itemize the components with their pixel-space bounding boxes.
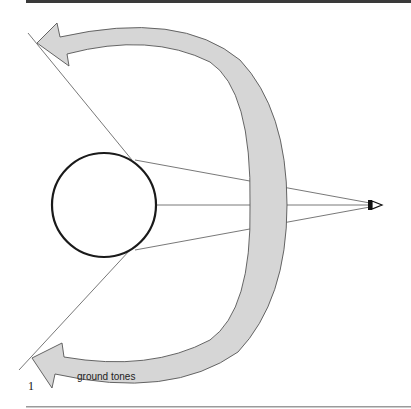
figure-number: 1 — [28, 379, 34, 393]
object-circle — [52, 153, 156, 257]
tangent-line-lower — [19, 250, 130, 370]
tangent-line-upper — [28, 33, 132, 160]
top-rule — [26, 0, 411, 3]
bottom-rule — [26, 406, 411, 408]
eye-icon — [368, 200, 382, 210]
arrow-label: ground tones — [77, 371, 135, 382]
diagram-canvas: ground tones 1 — [0, 0, 411, 409]
